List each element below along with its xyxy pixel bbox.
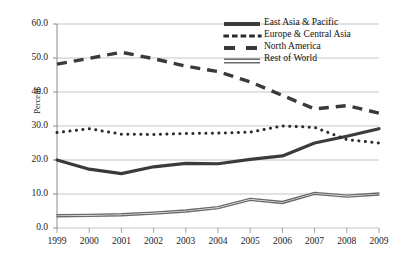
legend-label: Europe & Central Asia (264, 29, 351, 40)
x-tick-label: 2002 (137, 236, 171, 246)
x-tick-label: 2009 (362, 236, 393, 246)
legend-item-east-asia-pacific[interactable]: East Asia & Pacific (222, 16, 384, 28)
legend-label: East Asia & Pacific (264, 17, 338, 28)
y-tick-label: 20.0 (18, 154, 48, 164)
legend: East Asia & Pacific Europe & Central Asi… (222, 16, 384, 66)
x-tick-label: 2003 (169, 236, 203, 246)
y-tick-label: 40.0 (18, 86, 48, 96)
x-tick-label: 2006 (265, 236, 299, 246)
legend-item-rest-of-world[interactable]: Rest of World (222, 53, 384, 65)
dashed-line-swatch (222, 40, 262, 52)
legend-item-europe-central-asia[interactable]: Europe & Central Asia (222, 28, 384, 40)
legend-item-north-america[interactable]: North America (222, 40, 384, 52)
legend-label: North America (264, 41, 321, 52)
y-tick-label: 0.0 (18, 222, 48, 232)
y-tick-label: 10.0 (18, 188, 48, 198)
x-tick-label: 2004 (201, 236, 235, 246)
y-tick-label: 60.0 (18, 18, 48, 28)
y-tick-label: 50.0 (18, 52, 48, 62)
x-tick-label: 2008 (330, 236, 364, 246)
legend-label: Rest of World (264, 53, 317, 64)
x-tick-label: 2007 (298, 236, 332, 246)
y-tick-label: 30.0 (18, 120, 48, 130)
double-line-swatch (222, 53, 262, 65)
x-tick-label: 2000 (72, 236, 106, 246)
solid-line-swatch (222, 16, 262, 28)
x-tick-label: 2005 (233, 236, 267, 246)
dotted-line-swatch (222, 28, 262, 40)
x-tick-label: 1999 (40, 236, 74, 246)
x-tick-label: 2001 (104, 236, 138, 246)
